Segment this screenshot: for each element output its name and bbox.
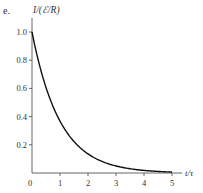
x-tick-label: 3 bbox=[114, 178, 118, 188]
y-tick-label: 0.4 bbox=[16, 112, 27, 122]
x-axis-label: t/τ bbox=[185, 168, 194, 178]
decay-curve bbox=[32, 32, 172, 172]
y-tick-label: 0.2 bbox=[16, 140, 27, 150]
y-axis-label: I/(ℰ/R) bbox=[32, 5, 60, 16]
x-tick-label: 0 bbox=[28, 178, 32, 188]
decay-chart: e. I/(ℰ/R) 0.20.40.60.81.0 012345 t/τ bbox=[0, 0, 203, 193]
y-tick-label: 1.0 bbox=[16, 27, 27, 37]
y-tick-label: 0.6 bbox=[16, 83, 27, 93]
y-ticks: 0.20.40.60.81.0 bbox=[16, 27, 32, 150]
x-tick-label: 4 bbox=[142, 178, 147, 188]
x-tick-label: 1 bbox=[58, 178, 62, 188]
x-tick-label: 5 bbox=[170, 178, 174, 188]
x-ticks: 012345 bbox=[28, 173, 174, 188]
x-tick-label: 2 bbox=[86, 178, 90, 188]
panel-label: e. bbox=[3, 5, 10, 16]
y-tick-label: 0.8 bbox=[16, 55, 27, 65]
